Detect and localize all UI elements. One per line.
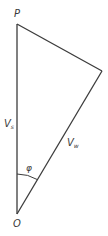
label-o: O [13, 218, 21, 229]
vector-triangle-diagram: P Vs Vw φ O [0, 0, 108, 236]
angle-arc-phi [17, 174, 37, 180]
label-vw: Vw [67, 137, 79, 149]
label-p: P [14, 8, 21, 19]
label-vs: Vs [4, 118, 14, 130]
label-phi: φ [26, 163, 32, 173]
side-top [17, 24, 102, 71]
side-vw [17, 71, 102, 214]
